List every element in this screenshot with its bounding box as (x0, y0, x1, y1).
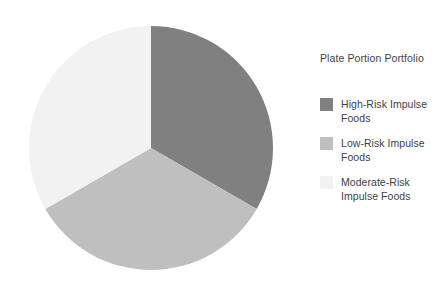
chart-legend: Plate Portion Portfolio High-Risk Impuls… (320, 52, 440, 214)
pie-slice-group (29, 26, 273, 270)
legend-item-list: High-Risk Impulse Foods Low-Risk Impulse… (320, 97, 440, 203)
legend-item[interactable]: Moderate-Risk Impulse Foods (320, 175, 440, 203)
legend-item-label: High-Risk Impulse Foods (341, 97, 436, 125)
legend-swatch-icon (320, 176, 333, 189)
legend-title: Plate Portion Portfolio (320, 52, 440, 65)
legend-item-label: Low-Risk Impulse Foods (341, 136, 436, 164)
legend-swatch-icon (320, 137, 333, 150)
pie-chart-figure: Plate Portion Portfolio High-Risk Impuls… (0, 0, 446, 299)
legend-swatch-icon (320, 98, 333, 111)
legend-item-label: Moderate-Risk Impulse Foods (341, 175, 436, 203)
legend-item[interactable]: High-Risk Impulse Foods (320, 97, 440, 125)
legend-item[interactable]: Low-Risk Impulse Foods (320, 136, 440, 164)
